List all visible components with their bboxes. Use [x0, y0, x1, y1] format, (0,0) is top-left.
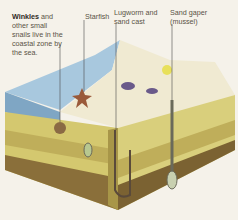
mussel-icon: [121, 82, 135, 90]
label-starfish: Starfish: [85, 12, 109, 21]
label-winkles: Winkles and other small snails live in t…: [12, 12, 67, 57]
winkle-icon: [54, 122, 66, 134]
snail-icon: [162, 65, 172, 75]
label-sand-gaper: Sand gaper (mussel): [170, 8, 220, 26]
label-lugworm: Lugworm and sand cast: [114, 8, 160, 26]
